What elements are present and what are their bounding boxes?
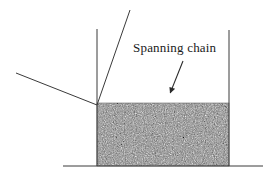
grain-texture [97,103,229,166]
diagram-canvas: Spanning chain [0,0,270,179]
figure-container: Spanning chain [0,0,270,179]
annotation-label: Spanning chain [133,40,217,55]
granular-fill-region [97,103,229,166]
